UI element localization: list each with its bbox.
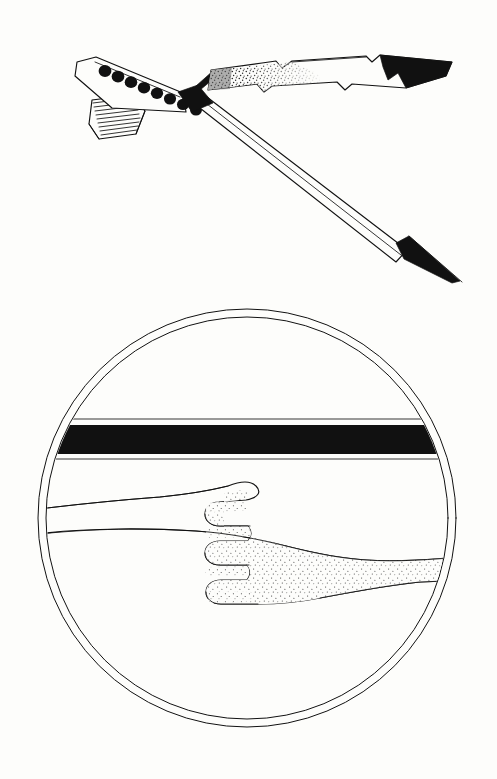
nock-dot — [125, 76, 138, 88]
illustration-plate: Ceremonial arrow and hand-in-circle illu… — [0, 0, 497, 779]
nock-dot — [151, 88, 163, 99]
feather-root-shade — [208, 67, 232, 90]
black-band — [40, 425, 454, 454]
nock-dot — [138, 82, 150, 94]
illustration-canvas — [0, 0, 497, 779]
nock-dot — [99, 65, 112, 77]
paper-background — [0, 0, 497, 779]
nock-dot — [112, 71, 125, 83]
nock-dot — [164, 93, 176, 104]
